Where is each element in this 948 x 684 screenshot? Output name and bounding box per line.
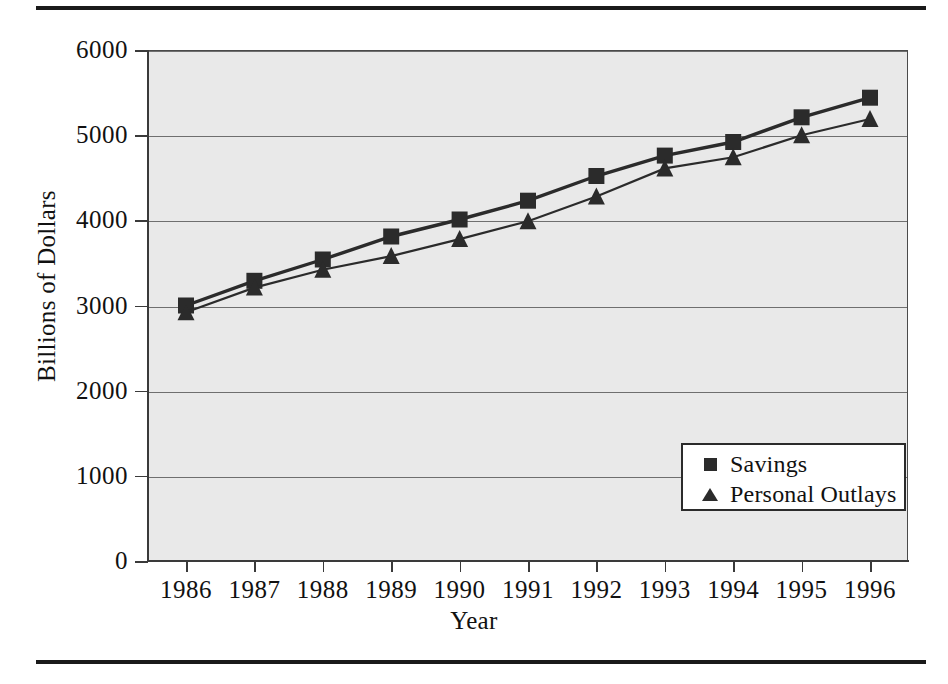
x-tick-mark xyxy=(733,561,735,572)
y-tick-mark xyxy=(135,561,148,563)
y-tick-mark xyxy=(135,220,148,222)
x-tick-mark xyxy=(528,561,530,572)
y-tick-label: 6000 xyxy=(18,37,128,62)
gridline xyxy=(149,307,907,308)
x-tick-mark xyxy=(323,561,325,572)
x-tick-mark xyxy=(391,561,393,572)
gridline xyxy=(149,392,907,393)
x-tick-mark xyxy=(186,561,188,572)
figure-top-rule xyxy=(36,6,926,10)
x-tick-mark xyxy=(802,561,804,572)
chart-legend: Savings Personal Outlays xyxy=(681,443,906,511)
x-tick-mark xyxy=(596,561,598,572)
gridline xyxy=(149,51,907,52)
x-tick-mark xyxy=(460,561,462,572)
x-tick-mark xyxy=(665,561,667,572)
y-axis-title: Billions of Dollars xyxy=(33,146,61,426)
triangle-marker-icon xyxy=(701,485,719,503)
square-marker-icon xyxy=(701,455,719,473)
legend-label-personal-outlays: Personal Outlays xyxy=(730,481,897,507)
y-tick-label: 5000 xyxy=(18,122,128,147)
x-tick-mark xyxy=(254,561,256,572)
legend-item-savings[interactable]: Savings xyxy=(701,449,904,479)
legend-label-savings: Savings xyxy=(730,451,807,477)
figure-bottom-rule xyxy=(36,660,926,664)
chart-figure: 0100020003000400050006000 19861987198819… xyxy=(0,0,948,684)
legend-item-personal-outlays[interactable]: Personal Outlays xyxy=(701,479,904,509)
y-tick-label: 0 xyxy=(18,548,128,573)
gridline xyxy=(149,221,907,222)
x-tick-mark xyxy=(870,561,872,572)
y-tick-mark xyxy=(135,50,148,52)
x-tick-label: 1996 xyxy=(825,576,915,604)
y-tick-mark xyxy=(135,391,148,393)
gridline xyxy=(149,136,907,137)
x-axis-title: Year xyxy=(0,607,948,635)
y-tick-mark xyxy=(135,135,148,137)
y-tick-label: 1000 xyxy=(18,463,128,488)
y-tick-mark xyxy=(135,476,148,478)
y-tick-mark xyxy=(135,306,148,308)
